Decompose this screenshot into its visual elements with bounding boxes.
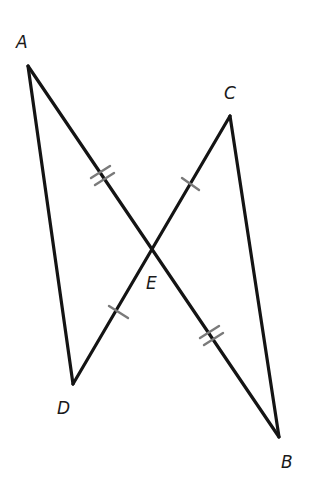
label-c: C <box>224 83 236 103</box>
label-d: D <box>57 398 70 418</box>
label-b: B <box>281 452 293 472</box>
single-tick-ce <box>182 178 199 190</box>
segment-cb <box>230 116 279 437</box>
segments <box>28 66 279 437</box>
label-e: E <box>146 273 157 293</box>
geometry-diagram: A C E D B <box>0 0 318 494</box>
label-a: A <box>15 32 28 52</box>
segment-ab <box>28 66 279 437</box>
segment-ad <box>28 66 73 384</box>
